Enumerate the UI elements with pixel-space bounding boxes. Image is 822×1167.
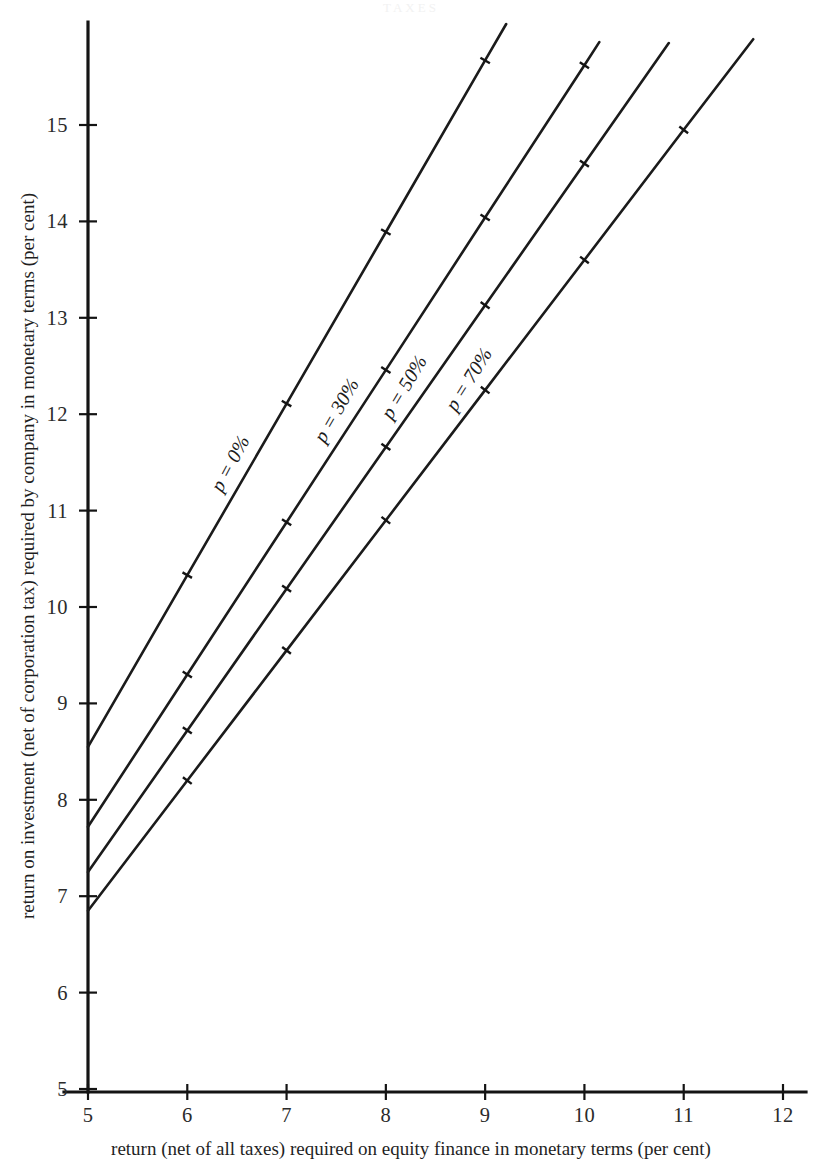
x-tick-label: 11 [673, 1104, 694, 1126]
line-chart: 56789101112131415 56789101112 p = 0%p = … [0, 0, 822, 1167]
series-point-markers-group [183, 58, 689, 784]
y-tick-label: 14 [47, 210, 69, 232]
x-axis-tick-labels: 56789101112 [83, 1104, 794, 1126]
x-tick-label: 12 [772, 1104, 794, 1126]
x-tick-label: 9 [480, 1104, 491, 1126]
x-tick-label: 8 [380, 1104, 391, 1126]
y-tick-label: 6 [57, 982, 68, 1004]
series-line-2 [88, 43, 669, 872]
series-label-1: p = 30% [308, 374, 364, 448]
x-tick-label: 10 [574, 1104, 596, 1126]
x-tick-label: 6 [182, 1104, 193, 1126]
y-tick-label: 15 [47, 114, 69, 136]
y-axis-title: return on investment (net of corporation… [17, 193, 39, 919]
series-label-0: p = 0% [205, 432, 254, 498]
x-tick-label: 5 [83, 1104, 94, 1126]
series-label-2: p = 50% [375, 351, 432, 425]
x-tick-label: 7 [281, 1104, 292, 1126]
y-tick-label: 12 [47, 403, 69, 425]
series-labels-group: p = 0%p = 30%p = 50%p = 70% [205, 344, 497, 498]
series-line-1 [88, 42, 599, 827]
y-tick-label: 10 [47, 596, 69, 618]
series-lines-group [88, 24, 753, 911]
y-axis-tick-labels: 56789101112131415 [47, 114, 69, 1100]
y-tick-label: 13 [47, 307, 69, 329]
series-label-3: p = 70% [439, 344, 497, 417]
y-tick-label: 7 [57, 885, 68, 907]
y-tick-label: 8 [57, 789, 68, 811]
figure-page: TAXES 56789101112131415 56789101112 p = … [0, 0, 822, 1167]
y-tick-label: 5 [57, 1078, 68, 1100]
y-tick-label: 9 [57, 692, 68, 714]
y-tick-label: 11 [47, 500, 68, 522]
x-axis-title: return (net of all taxes) required on eq… [111, 1138, 711, 1160]
